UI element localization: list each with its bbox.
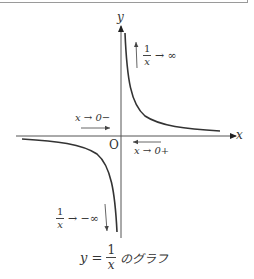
annotation-approach-0-plus: x → 0+: [134, 146, 169, 156]
limit-text: → ∞: [155, 49, 177, 62]
annotation-limit-positive-infinity: 1 x → ∞: [143, 44, 177, 67]
limit-text: → −∞: [68, 212, 99, 225]
fraction-one-over-x: 1 x: [56, 207, 64, 230]
arrow-down-neg-infinity: [105, 204, 107, 231]
annotation-limit-negative-infinity: 1 x → −∞: [56, 207, 99, 230]
x-axis-label: x: [236, 129, 243, 141]
caption-fraction: 1 x: [106, 244, 116, 271]
caption-suffix: のグラフ: [120, 249, 168, 266]
annotation-approach-0-minus: x → 0−: [75, 113, 110, 123]
y-axis-label: y: [117, 11, 124, 23]
origin-label: O: [109, 139, 119, 151]
arrow-up-infinity: [136, 42, 137, 68]
fraction-one-over-x: 1 x: [143, 44, 151, 67]
hyperbola-graph: [0, 0, 254, 279]
graph-caption: y = 1 x のグラフ: [80, 244, 168, 271]
caption-lhs: y =: [80, 250, 102, 265]
